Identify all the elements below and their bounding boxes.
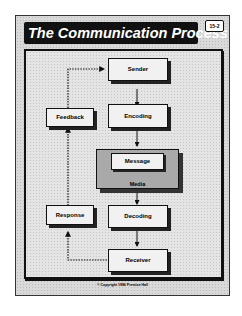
response-node: Response [46, 205, 94, 225]
copyright-notice: © Copyright 1996 Prentice Hall [15, 283, 230, 287]
media-label: Media [97, 181, 178, 187]
message-node: Message [111, 153, 164, 170]
decoding-node: Decoding [108, 205, 168, 228]
sender-node: Sender [108, 58, 168, 81]
feedback-node: Feedback [46, 108, 94, 127]
encoding-node: Encoding [108, 104, 168, 128]
receiver-node: Receiver [108, 249, 168, 272]
